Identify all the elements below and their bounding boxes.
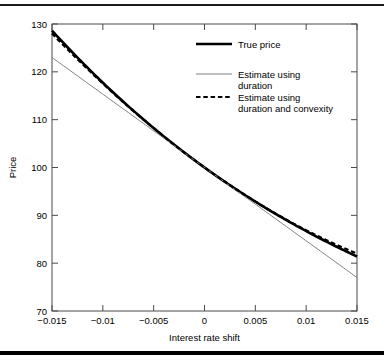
y-axis-tick-label: 100 — [31, 162, 47, 173]
x-axis-tick-label: −0.005 — [139, 315, 168, 326]
figure-panel: −0.015−0.01−0.00500.0050.010.01570809010… — [0, 0, 384, 364]
series-line — [52, 34, 357, 254]
y-axis-title: Price — [7, 157, 18, 179]
y-axis-tick-label: 80 — [36, 258, 47, 269]
x-axis-tick-label: 0 — [202, 315, 207, 326]
y-axis-tick-label: 90 — [36, 210, 47, 221]
y-axis-tick-label: 120 — [31, 66, 47, 77]
x-axis-tick-label: 0.005 — [243, 315, 267, 326]
x-axis-tick-label: −0.015 — [37, 315, 66, 326]
series-line — [52, 57, 357, 277]
x-axis-tick-label: 0.01 — [297, 315, 316, 326]
legend-label: True price — [238, 39, 280, 50]
series-line — [52, 31, 357, 257]
x-axis-tick-label: 0.015 — [345, 315, 369, 326]
chart-canvas: −0.015−0.01−0.00500.0050.010.01570809010… — [0, 0, 384, 364]
y-axis-tick-label: 110 — [32, 114, 47, 125]
y-axis-tick-label: 70 — [36, 306, 47, 317]
y-axis-tick-label: 130 — [31, 19, 47, 30]
x-axis-title: Interest rate shift — [169, 332, 240, 343]
legend-label-line2: duration and convexity — [238, 103, 333, 114]
legend-label-line2: duration — [238, 80, 272, 91]
x-axis-tick-label: −0.01 — [91, 315, 115, 326]
legend-label: Estimate using — [238, 69, 300, 80]
legend-label: Estimate using — [238, 92, 300, 103]
